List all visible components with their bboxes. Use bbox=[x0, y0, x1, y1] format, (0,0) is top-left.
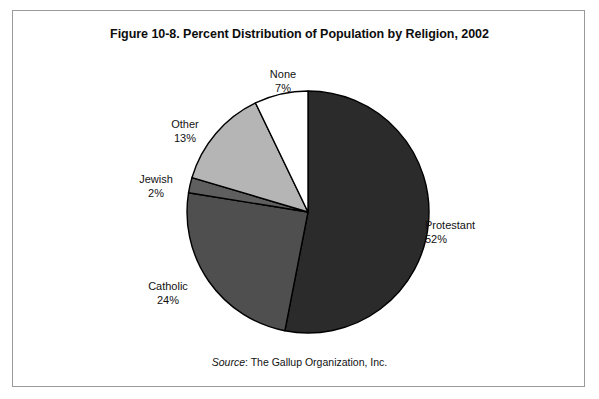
slice-label-other-value: 13% bbox=[145, 132, 225, 146]
pie-chart: Protestant 52% Catholic 24% Jewish 2% Ot… bbox=[13, 11, 586, 388]
slice-label-other-name: Other bbox=[145, 118, 225, 132]
slice-label-jewish-value: 2% bbox=[116, 187, 196, 201]
slice-label-catholic: Catholic 24% bbox=[123, 280, 213, 307]
slice-label-none: None 7% bbox=[243, 68, 323, 95]
slice-label-none-name: None bbox=[243, 68, 323, 82]
slice-label-other: Other 13% bbox=[145, 118, 225, 145]
slice-label-jewish: Jewish 2% bbox=[116, 173, 196, 200]
slice-label-protestant-name: Protestant bbox=[425, 219, 525, 233]
slice-label-protestant-value: 52% bbox=[425, 233, 525, 247]
figure-frame: Figure 10-8. Percent Distribution of Pop… bbox=[12, 10, 585, 387]
figure-source-keyword: Source bbox=[212, 356, 245, 368]
slice-label-catholic-name: Catholic bbox=[123, 280, 213, 294]
slice-label-jewish-name: Jewish bbox=[116, 173, 196, 187]
figure-source-text: The Gallup Organization, Inc. bbox=[251, 356, 388, 368]
slice-label-none-value: 7% bbox=[243, 82, 323, 96]
figure-source: Source: The Gallup Organization, Inc. bbox=[13, 356, 586, 368]
figure-root: Figure 10-8. Percent Distribution of Pop… bbox=[0, 0, 599, 399]
slice-label-protestant: Protestant 52% bbox=[425, 219, 525, 246]
slice-label-catholic-value: 24% bbox=[123, 294, 213, 308]
